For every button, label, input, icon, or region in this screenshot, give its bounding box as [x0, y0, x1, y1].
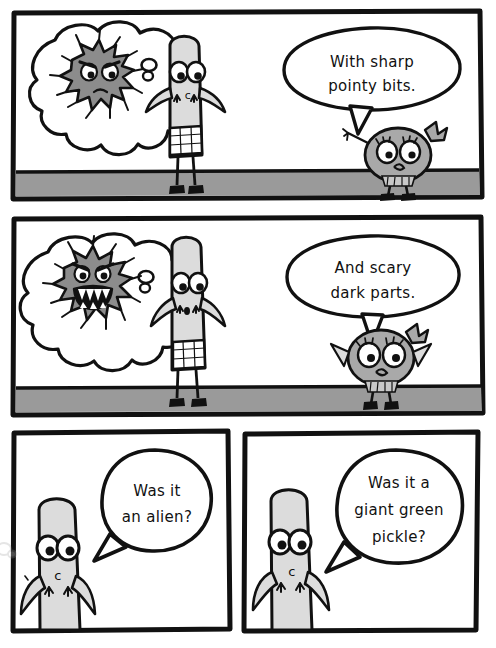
speech-line-4b: giant green [354, 501, 444, 519]
comic-panel-2: And scary dark parts. [0, 210, 496, 426]
speech-line-1b: pointy bits. [328, 77, 416, 95]
speech-line-2a: And scary [334, 259, 411, 277]
speech-line-3a: Was it [133, 482, 181, 500]
checkered-band [170, 126, 202, 155]
belly-mark-4: c [288, 564, 295, 579]
speech-line-4c: pickle? [372, 528, 426, 546]
comic-panel-4: c Was it a giant green pickle? [238, 424, 496, 648]
comic-panel-3: c Was it an alien? [0, 424, 248, 648]
belly-mark-3: c [54, 568, 61, 583]
comic-panel-1: c With sharp pointy bits. [0, 0, 496, 212]
comic-strip: c With sharp pointy bits. [0, 0, 496, 648]
speech-line-3b: an alien? [122, 508, 192, 526]
checkered-band-2 [173, 340, 205, 369]
belly-mark-1: c [185, 89, 191, 102]
speech-line-4a: Was it a [368, 474, 430, 492]
speech-line-2b: dark parts. [331, 284, 416, 302]
panel-2-ground [16, 386, 482, 412]
speech-line-1a: With sharp [330, 53, 414, 71]
